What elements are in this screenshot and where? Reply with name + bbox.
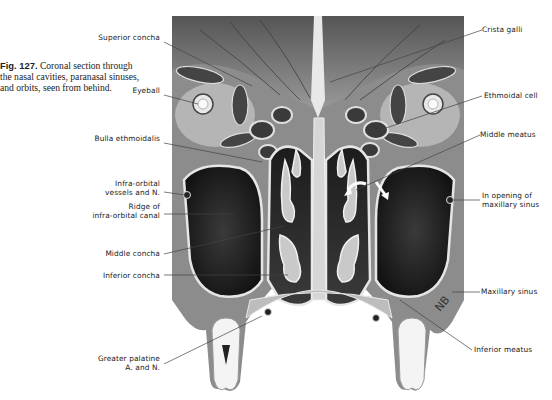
label-ethmoidal-cell: Ethmoidal cell (484, 91, 538, 100)
label-middle-concha: Middle concha (105, 249, 160, 258)
label-maxillary-sinus: Maxillary sinus (481, 287, 537, 296)
label-eyeball: Eyeball (132, 86, 160, 95)
label-bulla-ethmoidalis: Bulla ethmoidalis (94, 134, 160, 143)
label-middle-meatus: Middle meatus (480, 130, 536, 139)
label-inferior-concha: Inferior concha (103, 271, 160, 280)
label-opening-maxillary-sinus: In opening ofmaxillary sinus (482, 191, 539, 209)
right-tooth (398, 318, 426, 390)
label-infra-orbital-vessels: Infra-orbitalvessels and N. (105, 179, 160, 197)
left-maxillary-sinus (184, 166, 262, 297)
figure-caption: Fig. 127. Coronal section through the na… (0, 60, 140, 94)
label-inferior-meatus: Inferior meatus (474, 345, 532, 354)
label-crista-galli: Crista galli (482, 25, 522, 34)
label-greater-palatine: Greater palatineA. and N. (98, 354, 160, 372)
label-superior-concha: Superior concha (98, 33, 160, 42)
illustration-body: NB (172, 16, 464, 391)
right-maxillary-sinus (376, 166, 454, 297)
label-ridge-infra-orbital-canal: Ridge ofinfra-orbital canal (92, 202, 160, 220)
figure-number: Fig. 127. (0, 60, 38, 71)
